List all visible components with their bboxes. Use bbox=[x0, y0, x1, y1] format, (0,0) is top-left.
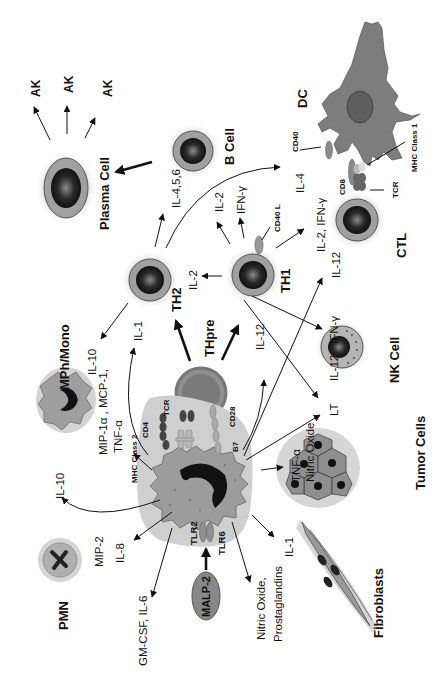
tlr2-label: TLR2 bbox=[188, 521, 199, 545]
plasma-cell bbox=[34, 152, 98, 224]
cytokine-il2-ifng: IL-2, IFN-γ bbox=[315, 197, 327, 252]
cytokine-il12-ctl: IL-12 bbox=[330, 252, 342, 278]
b7-label: B7 bbox=[231, 441, 240, 452]
cd4-label: CD4 bbox=[141, 421, 150, 438]
dc-label: DC bbox=[295, 89, 310, 108]
fibroblasts-label: Fibroblasts bbox=[371, 568, 386, 638]
cytokine-ifng-th1: IFN-γ bbox=[235, 186, 247, 214]
ak-label-1: AK bbox=[29, 79, 43, 97]
tumor-cells bbox=[276, 428, 360, 508]
mhc-class1-label: MHC Class 1 bbox=[410, 123, 419, 172]
thpre-label: THpre bbox=[202, 319, 217, 357]
cytokine-ifng-nk: IFN-γ bbox=[328, 316, 340, 344]
dendritic-cell bbox=[318, 22, 420, 166]
pmn-cell bbox=[38, 538, 82, 582]
ak-label-3: AK bbox=[101, 79, 115, 97]
cytokine-il12-th1: IL-12 bbox=[254, 324, 266, 350]
cytokine-tnfa-no: TNF-α bbox=[290, 449, 302, 482]
cytokine-il2-th1: IL-2 bbox=[213, 192, 225, 212]
cytokine-il1-th2: IL-1 bbox=[132, 321, 144, 341]
nk-cell bbox=[314, 319, 370, 375]
malp2-label: MALP-2 bbox=[200, 576, 212, 617]
tlr6-label: TLR6 bbox=[216, 531, 227, 555]
cytokine-mip2: MIP-2 bbox=[93, 536, 105, 567]
ctl-label: CTL bbox=[394, 233, 409, 258]
nk-cell-label: NK Cell bbox=[387, 337, 402, 383]
b-cell-label: B Cell bbox=[222, 128, 237, 165]
cytokine-gmcsf-il6: GM-CSF, IL-6 bbox=[137, 596, 149, 666]
cytokine-mip-mcp: MIP-1α , MCP-1, bbox=[97, 369, 109, 455]
th2-label: TH2 bbox=[169, 287, 184, 312]
cd40-label: CD40 bbox=[291, 131, 300, 152]
cytokine-il4: IL-4 bbox=[294, 173, 306, 193]
th1-cell bbox=[223, 236, 283, 305]
cytokine-il456: IL-4,5,6 bbox=[170, 169, 182, 208]
cytokine-il12-nk: IL-12 bbox=[328, 355, 340, 381]
mhc-class2-label: MHC Class 2 bbox=[130, 434, 139, 483]
cytokine-il8: IL-8 bbox=[114, 543, 126, 563]
cytokine-tnfa-mph: TNF-α bbox=[112, 420, 124, 453]
cytokine-nitric-oxide-pg: Nitric Oxide, bbox=[255, 577, 267, 640]
cytokine-nitric-oxide: Nitric Oxide bbox=[304, 423, 316, 482]
cd28-label: CD28 bbox=[228, 406, 237, 427]
cytokine-il2-th2: IL-2 bbox=[187, 270, 199, 290]
plasma-cell-label: Plasma Cell bbox=[97, 157, 112, 230]
cd40l-label: CD40 L bbox=[273, 204, 282, 232]
cytokine-il10-pmn: IL-10 bbox=[54, 473, 66, 499]
th1-label: TH1 bbox=[278, 268, 293, 293]
fibroblasts bbox=[296, 520, 378, 632]
cytokine-prostaglandins: Prostaglandins bbox=[272, 566, 284, 642]
cytokine-il1-fib: IL-1 bbox=[283, 537, 295, 557]
tcr-ctl-label: TCR bbox=[391, 181, 400, 198]
ak-label-2: AK bbox=[62, 75, 76, 93]
tcr-th-label: TCR bbox=[162, 399, 171, 416]
ctl-cell bbox=[327, 159, 387, 250]
tumor-cells-label: Tumor Cells bbox=[413, 416, 428, 490]
cytokine-lt: LT bbox=[328, 403, 340, 416]
mph-mono-label: MPh/Mono bbox=[57, 324, 72, 390]
cd8-label: CD8 bbox=[338, 178, 347, 195]
pmn-label: PMN bbox=[56, 601, 71, 630]
immune-diagram: AK AK AK Plasma Cell B Cell DC TH2 TH1 T… bbox=[0, 0, 445, 692]
